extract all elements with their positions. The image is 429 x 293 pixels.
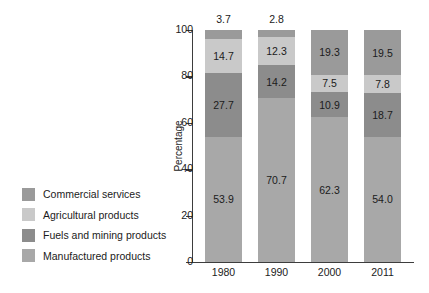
- bar-segment-value-label: 19.3: [319, 46, 339, 58]
- stacked-bar[interactable]: 54.018.77.819.5: [364, 30, 401, 262]
- y-axis-tick-label: 20: [163, 209, 193, 222]
- x-axis-tick-label: 1990: [250, 266, 303, 279]
- bar-segment[interactable]: 18.7: [364, 93, 401, 136]
- y-axis-tick-label: 100: [163, 23, 193, 36]
- bar-outside-value-label: 2.8: [250, 13, 303, 25]
- x-axis-tick-label: 2011: [356, 266, 409, 279]
- bar-segment-value-label: 14.2: [266, 76, 286, 88]
- bar-segment[interactable]: 12.3: [258, 37, 295, 66]
- legend-item[interactable]: Commercial services: [22, 184, 182, 204]
- bar-outside-value-label: 3.7: [197, 13, 250, 25]
- bar-segment-value-label: 53.9: [213, 193, 233, 205]
- bar-segment-value-label: 18.7: [372, 109, 392, 121]
- bar-segment-value-label: 70.7: [266, 174, 286, 186]
- bar-segment[interactable]: 53.9: [205, 137, 242, 262]
- legend-item[interactable]: Fuels and mining products: [22, 225, 182, 245]
- y-axis-title: Percentage: [173, 120, 184, 171]
- bar-segment-value-label: 7.8: [375, 78, 390, 90]
- legend-item-label: Manufactured products: [43, 250, 150, 262]
- bar-group[interactable]: 62.310.97.519.32000: [303, 30, 356, 262]
- bar-segment[interactable]: 19.5: [364, 30, 401, 75]
- x-axis-line: [192, 262, 414, 264]
- bar-segment[interactable]: 54.0: [364, 137, 401, 262]
- chart-legend: Commercial servicesAgricultural products…: [22, 184, 182, 266]
- bar-segment[interactable]: 62.3: [311, 117, 348, 262]
- y-axis-line: [192, 30, 193, 262]
- bar-segment[interactable]: 7.5: [311, 75, 348, 92]
- legend-item[interactable]: Manufactured products: [22, 246, 182, 266]
- bar-group[interactable]: 53.927.714.73.73.71980: [197, 30, 250, 262]
- legend-swatch-icon: [22, 188, 35, 201]
- legend-item-label: Fuels and mining products: [43, 229, 166, 241]
- bar-segment[interactable]: 70.7: [258, 98, 295, 262]
- legend-item-label: Commercial services: [43, 188, 140, 200]
- bar-segment[interactable]: 7.8: [364, 75, 401, 93]
- bar-segment[interactable]: 10.9: [311, 92, 348, 117]
- bar-segment[interactable]: 14.2: [258, 65, 295, 98]
- bar-segment-value-label: 14.7: [213, 50, 233, 62]
- bar-group[interactable]: 54.018.77.819.52011: [356, 30, 409, 262]
- chart-figure: Commercial servicesAgricultural products…: [0, 0, 429, 293]
- bar-segment-value-label: 7.5: [322, 77, 337, 89]
- bar-group[interactable]: 70.714.212.32.82.81990: [250, 30, 303, 262]
- legend-swatch-icon: [22, 208, 35, 221]
- y-axis-tick-label: 0: [163, 255, 193, 268]
- legend-swatch-icon: [22, 249, 35, 262]
- x-axis-tick-label: 1980: [197, 266, 250, 279]
- bar-segment[interactable]: 19.3: [311, 30, 348, 75]
- bar-segment[interactable]: 27.7: [205, 73, 242, 137]
- plot-area: 020406080100 Percentage 53.927.714.73.73…: [197, 30, 409, 262]
- bar-segment-value-label: 62.3: [319, 184, 339, 196]
- stacked-bar[interactable]: 53.927.714.73.7: [205, 30, 242, 262]
- bar-segment-value-label: 10.9: [319, 99, 339, 111]
- bar-segment-value-label: 19.5: [372, 47, 392, 59]
- bar-segment-value-label: 27.7: [213, 99, 233, 111]
- bar-segment-value-label: 12.3: [266, 45, 286, 57]
- legend-item-label: Agricultural products: [43, 209, 139, 221]
- y-axis-tick-label: 80: [163, 69, 193, 82]
- stacked-bar[interactable]: 62.310.97.519.3: [311, 30, 348, 262]
- stacked-bar[interactable]: 70.714.212.32.8: [258, 30, 295, 262]
- bar-segment-value-label: 54.0: [372, 193, 392, 205]
- bar-segment[interactable]: 3.7: [205, 30, 242, 39]
- bar-segment[interactable]: 14.7: [205, 39, 242, 73]
- legend-item[interactable]: Agricultural products: [22, 205, 182, 225]
- legend-swatch-icon: [22, 229, 35, 242]
- x-axis-tick-label: 2000: [303, 266, 356, 279]
- bar-segment[interactable]: 2.8: [258, 30, 295, 36]
